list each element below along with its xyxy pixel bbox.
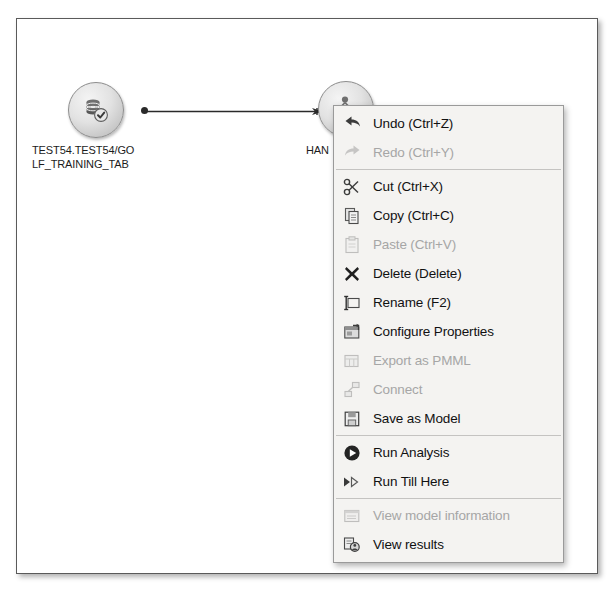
menu-item-label: View results — [373, 537, 444, 552]
configure-properties-icon — [339, 322, 365, 342]
workflow-node-source[interactable] — [68, 82, 124, 138]
menu-item-cut[interactable]: Cut (Ctrl+X) — [334, 172, 563, 201]
workflow-connector[interactable] — [145, 108, 325, 116]
redo-icon — [339, 143, 365, 163]
menu-item-label: Delete (Delete) — [373, 266, 462, 281]
menu-item-label: Copy (Ctrl+C) — [373, 208, 454, 223]
model-information-icon — [339, 506, 365, 526]
menu-item-view-model-information[interactable]: View model information — [334, 501, 563, 530]
fast-forward-icon — [339, 472, 365, 492]
menu-item-export-as-pmml[interactable]: Export as PMML — [334, 346, 563, 375]
menu-item-rename[interactable]: Rename (F2) — [334, 288, 563, 317]
menu-item-paste[interactable]: Paste (Ctrl+V) — [334, 230, 563, 259]
menu-item-configure-properties[interactable]: Configure Properties — [334, 317, 563, 346]
workflow-node-model-label: HAN — [306, 143, 329, 157]
workflow-node-source-label: TEST54.TEST54/GO LF_TRAINING_TAB — [32, 143, 134, 171]
connect-icon — [339, 380, 365, 400]
menu-item-label: Run Till Here — [373, 474, 449, 489]
menu-separator — [336, 169, 561, 170]
copy-icon — [339, 206, 365, 226]
menu-item-label: Run Analysis — [373, 445, 449, 460]
menu-item-label: Save as Model — [373, 411, 460, 426]
menu-item-delete[interactable]: Delete (Delete) — [334, 259, 563, 288]
save-model-icon — [339, 409, 365, 429]
menu-item-label: Undo (Ctrl+Z) — [373, 116, 453, 131]
menu-item-label: Configure Properties — [373, 324, 494, 339]
menu-separator — [336, 498, 561, 499]
play-circle-icon — [339, 443, 365, 463]
menu-item-label: Connect — [373, 382, 422, 397]
menu-item-view-results[interactable]: View results — [334, 530, 563, 559]
menu-item-connect[interactable]: Connect — [334, 375, 563, 404]
clipboard-icon — [339, 235, 365, 255]
rename-icon — [339, 293, 365, 313]
database-node-icon — [69, 83, 123, 137]
menu-item-label: Rename (F2) — [373, 295, 451, 310]
menu-item-run-analysis[interactable]: Run Analysis — [334, 438, 563, 467]
menu-item-redo[interactable]: Redo (Ctrl+Y) — [334, 138, 563, 167]
menu-separator — [336, 435, 561, 436]
undo-icon — [339, 114, 365, 134]
menu-item-copy[interactable]: Copy (Ctrl+C) — [334, 201, 563, 230]
menu-item-save-as-model[interactable]: Save as Model — [334, 404, 563, 433]
menu-item-label: Cut (Ctrl+X) — [373, 179, 443, 194]
context-menu[interactable]: Undo (Ctrl+Z) Redo (Ctrl+Y) Cut (Ctrl+X) — [333, 105, 564, 563]
menu-item-label: Export as PMML — [373, 353, 471, 368]
delete-x-icon — [339, 264, 365, 284]
menu-item-label: Redo (Ctrl+Y) — [373, 145, 454, 160]
scissors-icon — [339, 177, 365, 197]
menu-item-undo[interactable]: Undo (Ctrl+Z) — [334, 109, 563, 138]
view-results-icon — [339, 535, 365, 555]
menu-item-run-till-here[interactable]: Run Till Here — [334, 467, 563, 496]
export-pmml-icon — [339, 351, 365, 371]
menu-item-label: View model information — [373, 508, 510, 523]
menu-item-label: Paste (Ctrl+V) — [373, 237, 456, 252]
